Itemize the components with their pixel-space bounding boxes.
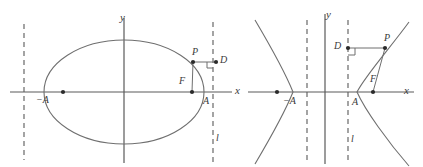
hyperbola-point-p-dot [383,46,387,50]
ellipse-focus-right-dot [190,90,194,94]
ellipse-vertex-left-label: −A [36,95,49,105]
hyperbola-focus-left-dot [275,90,279,94]
conic-sections-figure: y x −A A F P D l y x −A A F P D l [0,0,423,167]
hyperbola-vertex-right-label: A [352,97,358,107]
ellipse-focus-left-dot [61,90,65,94]
ellipse-point-d-dot [214,60,218,64]
hyperbola-x-axis-label: x [404,85,409,96]
hyperbola-y-axis-label: y [326,9,331,20]
ellipse-y-axis-label: y [120,12,125,23]
ellipse-right-angle-icon [207,62,213,68]
ellipse-focus-label: F [179,76,185,86]
ellipse-directrix-label: l [216,133,219,143]
hyperbola-directrix-label: l [351,134,354,144]
ellipse-x-axis-label: x [235,85,240,96]
hyperbola-segment-fp [373,48,385,92]
hyperbola-point-d-label: D [334,41,341,51]
ellipse-vertex-right-label: A [203,96,209,106]
ellipse-diagram [10,18,232,163]
hyperbola-focus-right-dot [371,90,375,94]
ellipse-point-p-label: P [192,47,198,57]
hyperbola-right-branch [357,22,409,166]
hyperbola-point-p-label: P [384,33,390,43]
hyperbola-point-d-dot [346,46,350,50]
ellipse-point-d-label: D [220,55,227,65]
hyperbola-vertex-left-label: −A [283,96,296,106]
ellipse-point-p-dot [191,60,195,64]
hyperbola-focus-label: F [370,74,376,84]
figure-canvas [0,0,423,167]
ellipse-segment-fp [192,62,193,92]
